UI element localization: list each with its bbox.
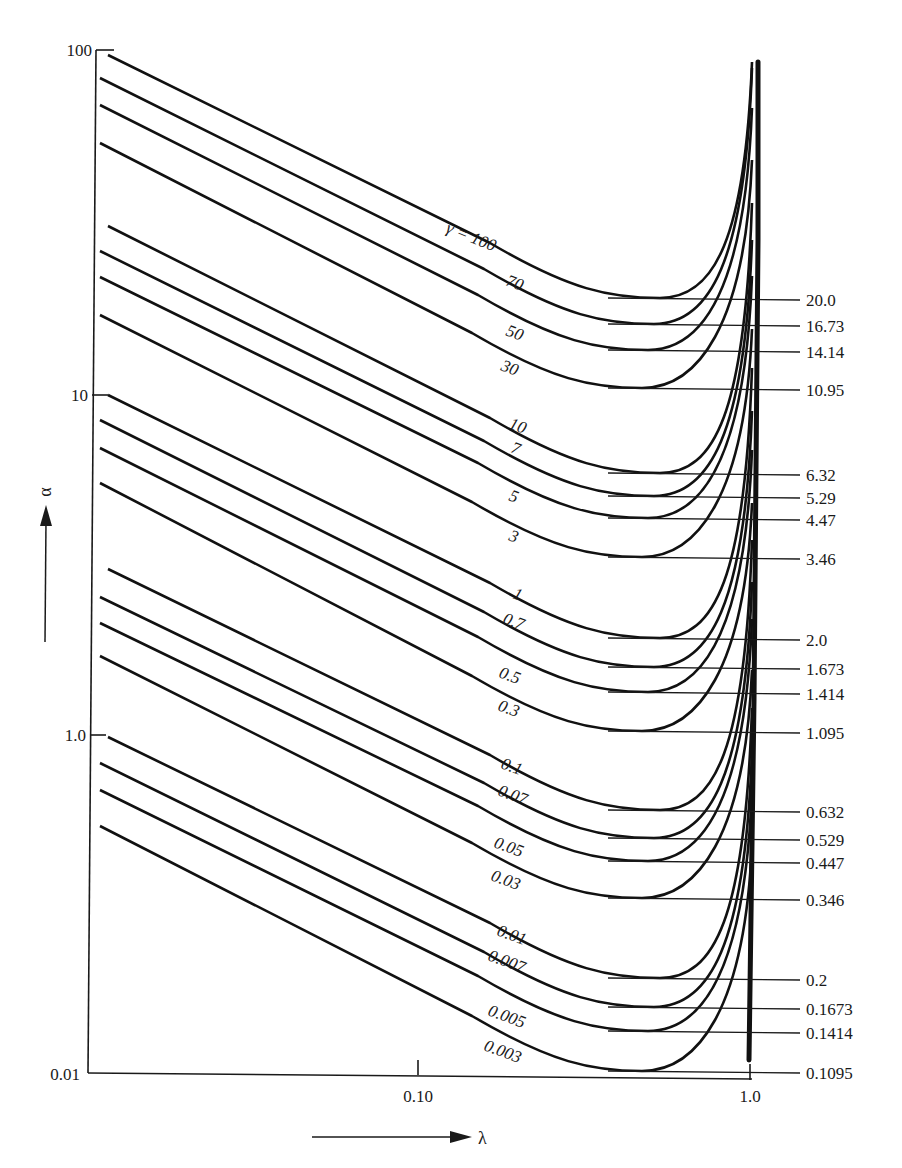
curve-label: 0.5 [497, 663, 523, 688]
y-tick-10: 10 [71, 386, 88, 405]
alpha-label: α [35, 487, 55, 497]
curve-gamma-1 [108, 368, 752, 638]
curve-gamma-0.7 [100, 411, 752, 667]
minimum-line [608, 731, 800, 733]
x-tick-010: 0.10 [403, 1087, 433, 1106]
curve-gamma-7 [100, 240, 752, 496]
minimum-line [608, 473, 800, 475]
y-axis [88, 50, 114, 1073]
curve-label: 0.03 [489, 866, 523, 894]
curve-gamma-100 [108, 55, 752, 298]
minimum-line [608, 1007, 800, 1009]
curve-gamma-0.003 [100, 826, 752, 1071]
curve-gamma-0.3 [100, 483, 752, 731]
minimum-value-label: 3.46 [806, 550, 836, 569]
minimum-value-label: 4.47 [806, 511, 836, 530]
minimum-line [608, 518, 800, 520]
y-tick-100: 100 [67, 41, 93, 60]
minimum-line [608, 898, 800, 900]
minimum-line [608, 810, 800, 812]
minimum-line [608, 978, 800, 980]
minimum-value-label: 0.1414 [806, 1024, 853, 1043]
minimum-value-label: 1.673 [806, 660, 844, 679]
minimum-value-label: 0.447 [806, 854, 845, 873]
minimum-line [608, 692, 800, 694]
curve-gamma-0.5 [100, 448, 752, 692]
y-tick-001: 0.01 [50, 1065, 80, 1084]
arrow-up-icon [40, 505, 52, 526]
minimum-value-label: 0.2 [806, 971, 827, 990]
curve-label: 10 [507, 414, 530, 438]
minimum-line [608, 838, 800, 840]
minimum-line [608, 388, 800, 390]
minimum-line [608, 861, 800, 863]
arrow-right-icon [450, 1131, 472, 1143]
minimum-value-label: 14.14 [806, 343, 845, 362]
y-axis-title: α [35, 487, 55, 642]
curve-gamma-5 [100, 276, 752, 518]
curve-label: 0.01 [495, 921, 529, 949]
curve-gamma-0.05 [100, 619, 752, 861]
curve-gamma-30 [100, 143, 752, 388]
curve-label: 7 [509, 438, 525, 459]
curve-label: 3 [506, 526, 521, 547]
curve-label: 0.007 [486, 946, 530, 977]
minimum-value-label: 10.95 [806, 381, 844, 400]
curve-gamma-0.007 [100, 751, 752, 1007]
minimum-value-label: 0.346 [806, 891, 844, 910]
minimum-line [608, 1031, 800, 1033]
minimum-value-label: 2.0 [806, 631, 827, 650]
minimum-line [608, 350, 800, 352]
y-tick-1: 1.0 [65, 726, 86, 745]
minimum-value-label: 0.632 [806, 803, 844, 822]
minimum-line [608, 638, 800, 640]
lambda-label: λ [478, 1128, 487, 1148]
minimum-value-label: 0.529 [806, 831, 844, 850]
minimum-line [608, 324, 800, 326]
minimum-value-label: 0.1673 [806, 1000, 853, 1019]
curve-gamma-0.005 [100, 789, 752, 1031]
minimum-value-label: 1.414 [806, 685, 845, 704]
minimum-line [608, 298, 800, 300]
curve-gamma-0.07 [100, 582, 752, 838]
minimum-line [608, 496, 800, 498]
curve-gamma-70 [100, 68, 752, 324]
x-tick-1: 1.0 [739, 1087, 760, 1106]
minimum-line [608, 667, 800, 669]
minimum-value-label: 5.29 [806, 489, 836, 508]
minimum-value-label: 0.1095 [806, 1064, 853, 1083]
minimum-line [608, 1071, 800, 1073]
curves-group [100, 55, 752, 1071]
curve-label: 0.1 [499, 754, 525, 779]
minimum-value-label: 1.095 [806, 724, 844, 743]
curve-gamma-50 [100, 105, 752, 350]
curve-label: 50 [504, 321, 527, 345]
curve-label: 0.7 [501, 609, 529, 635]
minimum-labels-group: 20.016.7314.1410.956.325.294.473.462.01.… [806, 291, 853, 1083]
minimum-value-label: 16.73 [806, 317, 844, 336]
curve-label: 5 [507, 486, 521, 507]
minimum-value-label: 6.32 [806, 466, 836, 485]
curve-label: γ = 100 [444, 218, 500, 255]
minimum-value-label: 20.0 [806, 291, 836, 310]
minimum-line [608, 557, 800, 559]
chart: 100 10 1.0 0.01 0.10 1.0 α λ γ = 1007050… [0, 0, 902, 1168]
x-axis-title: λ [312, 1128, 487, 1148]
curve-gamma-0.01 [108, 708, 752, 978]
